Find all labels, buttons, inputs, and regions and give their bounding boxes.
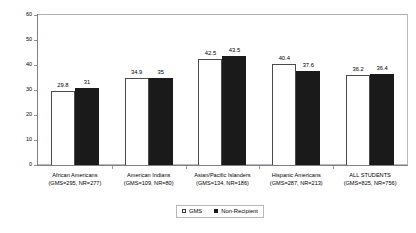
legend-item-non-recipient: Non-Recipient (214, 209, 258, 215)
bar-chart: 0102030405060 29.83134.93542.543.540.437… (0, 0, 416, 233)
category-sample-sizes: (GMS=825, NR=756) (333, 179, 407, 187)
bar-non-recipient: 35 (149, 78, 173, 166)
bar-value-label: 36.2 (352, 67, 363, 73)
y-axis-tick-label: 0 (6, 162, 32, 168)
bar-group: 36.236.4 (333, 15, 407, 165)
bar-gms: 29.8 (51, 91, 75, 166)
bar-value-label: 34.9 (131, 70, 142, 76)
bar-value-label: 29.8 (57, 83, 68, 89)
y-axis-tick-mark (34, 15, 37, 16)
bar-value-label: 31 (84, 80, 90, 86)
y-axis-tick-label: 20 (6, 112, 32, 118)
category-sample-sizes: (GMS=287, NR=213) (259, 179, 333, 187)
bar-group: 29.831 (38, 15, 112, 165)
bar-value-label: 40.4 (279, 56, 290, 62)
y-axis-tick-label: 10 (6, 137, 32, 143)
category-name: Asian/Pacific Islanders (186, 171, 260, 179)
bar-value-label: 42.5 (205, 51, 216, 57)
bar-group: 40.437.6 (259, 15, 333, 165)
x-axis-category-label: American Indians(GMS=109, NR=80) (112, 171, 186, 187)
legend-item-gms: GMS (182, 209, 202, 215)
legend-swatch-open-square-icon (182, 209, 186, 213)
x-axis-tick-mark (333, 166, 334, 169)
y-axis-tick-mark (34, 40, 37, 41)
category-name: American Indians (112, 171, 186, 179)
category-sample-sizes: (GMS=295, NR=277) (38, 179, 112, 187)
bar-gms: 34.9 (125, 78, 149, 165)
bar-non-recipient: 37.6 (296, 71, 320, 165)
bar-gms: 40.4 (272, 64, 296, 165)
chart-legend: GMS Non-Recipient (176, 205, 264, 218)
y-axis-tick-mark (34, 115, 37, 116)
bar-value-label: 36.4 (376, 66, 387, 72)
plot-area: 29.83134.93542.543.540.437.636.236.4 (38, 15, 407, 165)
y-axis-tick-mark (34, 140, 37, 141)
x-axis-category-label: African Americans(GMS=295, NR=277) (38, 171, 112, 187)
bar-group: 34.935 (112, 15, 186, 165)
x-axis-category-label: Hispanic Americans(GMS=287, NR=213) (259, 171, 333, 187)
legend-label-gms: GMS (189, 209, 202, 215)
x-axis-category-label: ALL STUDENTS(GMS=825, NR=756) (333, 171, 407, 187)
x-axis-tick-mark (259, 166, 260, 169)
category-sample-sizes: (GMS=134, NR=186) (186, 179, 260, 187)
bar-non-recipient: 36.4 (370, 74, 394, 165)
category-name: African Americans (38, 171, 112, 179)
legend-swatch-filled-square-icon (214, 209, 218, 213)
category-sample-sizes: (GMS=109, NR=80) (112, 179, 186, 187)
bar-gms: 42.5 (198, 59, 222, 165)
bar-gms: 36.2 (346, 75, 370, 166)
category-name: Hispanic Americans (259, 171, 333, 179)
bar-value-label: 37.6 (303, 63, 314, 69)
x-axis-line (37, 165, 408, 166)
bar-non-recipient: 43.5 (222, 56, 246, 165)
y-axis-tick-mark (34, 65, 37, 66)
bar-group: 42.543.5 (186, 15, 260, 165)
category-name: ALL STUDENTS (333, 171, 407, 179)
y-axis-tick-mark (34, 165, 37, 166)
bar-non-recipient: 31 (75, 88, 99, 166)
y-axis-tick-label: 50 (6, 37, 32, 43)
x-axis-tick-mark (112, 166, 113, 169)
y-axis-tick-label: 40 (6, 62, 32, 68)
y-axis-tick-mark (34, 90, 37, 91)
y-axis-tick-label: 60 (6, 12, 32, 18)
x-axis-tick-mark (186, 166, 187, 169)
legend-label-non-recipient: Non-Recipient (221, 209, 258, 215)
bar-value-label: 43.5 (229, 48, 240, 54)
x-axis-category-label: Asian/Pacific Islanders(GMS=134, NR=186) (186, 171, 260, 187)
y-axis-tick-label: 30 (6, 87, 32, 93)
bar-value-label: 35 (157, 70, 163, 76)
